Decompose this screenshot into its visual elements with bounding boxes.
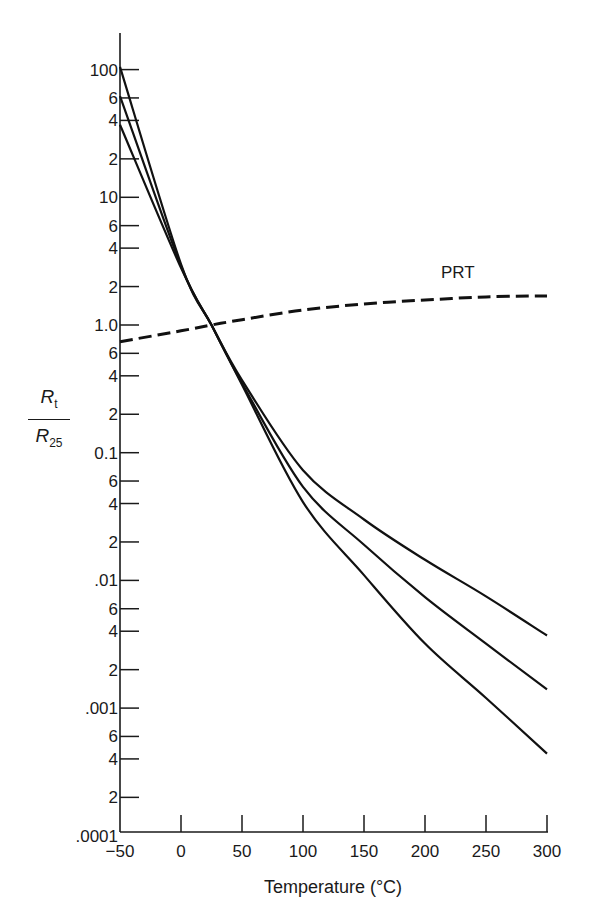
y-tick-label: 6 [109,217,118,236]
y-tick-label: 4 [109,750,118,769]
x-ticks: −50050100150200250300 [106,815,562,861]
y-tick-label: 2 [109,533,118,552]
y-tick-label: 6 [109,472,118,491]
y-tick-label: 6 [109,600,118,619]
y-tick-label: 10 [99,188,118,207]
x-tick-label: −50 [106,842,135,861]
x-tick-label: 50 [233,842,252,861]
axes [120,33,548,832]
y-tick-label: 4 [109,622,118,641]
y-tick-label: 2 [109,661,118,680]
y-tick-label: 2 [109,788,118,807]
curves [120,67,547,754]
x-tick-label: 250 [472,842,500,861]
chart: 100642106421.06420.1642.01642.001642.000… [0,0,592,907]
y-tick-label: 6 [109,727,118,746]
y-tick-label: 2 [109,150,118,169]
y-tick-label: 1.0 [94,316,118,335]
y-tick-label: 0.1 [94,444,118,463]
x-tick-label: 300 [533,842,561,861]
y-axis-title-numerator: Rt [28,385,70,416]
y-ticks: 100642106421.06420.1642.01642.001642.000… [75,61,139,846]
y-tick-label: .001 [85,699,118,718]
x-tick-label: 0 [176,842,185,861]
y-tick-label: 4 [109,239,118,258]
thermistor-curve-3 [120,67,547,754]
y-tick-label: 2 [109,278,118,297]
y-tick-label: 100 [90,61,118,80]
y-tick-label: 2 [109,405,118,424]
x-tick-label: 200 [411,842,439,861]
y-tick-label: 4 [109,495,118,514]
y-tick-label: 6 [109,89,118,108]
y-tick-label: 4 [109,367,118,386]
prt-curve [120,296,547,342]
thermistor-curve-1 [120,125,547,636]
y-tick-label: 6 [109,344,118,363]
y-axis-title: Rt R25 [28,385,70,455]
x-tick-label: 150 [350,842,378,861]
fraction-bar [28,419,70,420]
y-axis-title-denominator: R25 [28,424,70,455]
prt-annotation: PRT [441,263,475,282]
y-tick-label: .01 [94,571,118,590]
x-tick-label: 100 [289,842,317,861]
y-tick-label: 4 [109,111,118,130]
thermistor-curve-2 [120,96,547,689]
x-axis-title: Temperature (°C) [264,877,402,897]
